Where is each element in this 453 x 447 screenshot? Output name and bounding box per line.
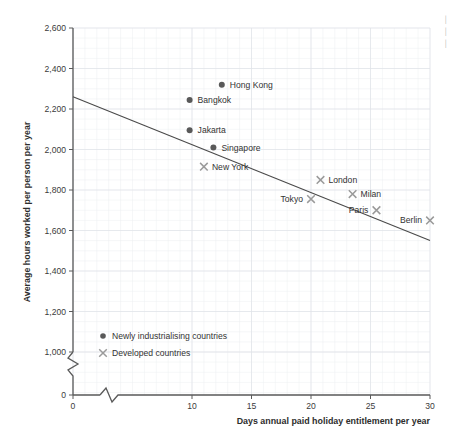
edge-text-line: │ xyxy=(444,14,453,26)
data-marker-dot xyxy=(219,82,225,88)
data-marker-dot xyxy=(187,97,193,103)
chart-canvas: 01,0001,2001,4001,6001,8002,0002,2002,40… xyxy=(0,0,453,447)
x-tick-label: 20 xyxy=(306,401,316,411)
y-tick-label: 1,000 xyxy=(44,347,66,357)
y-tick-label: 0 xyxy=(61,390,66,400)
y-axis-tick-labels: 01,0001,2001,4001,6001,8002,0002,2002,40… xyxy=(44,23,66,400)
data-marker-dot xyxy=(187,127,193,133)
data-point-label: Jakarta xyxy=(198,125,226,135)
series-newly-industrialising: Hong KongBangkokJakartaSingapore xyxy=(187,80,273,153)
data-point-label: Singapore xyxy=(221,143,260,153)
x-tick-label: 10 xyxy=(187,401,197,411)
data-point-label: London xyxy=(329,175,358,185)
edge-text-line: │ xyxy=(444,38,453,50)
data-points: Hong KongBangkokJakartaSingaporeNew York… xyxy=(187,80,434,226)
data-point-label: Bangkok xyxy=(198,95,232,105)
data-point-label: Milan xyxy=(361,189,382,199)
x-tick-label: 0 xyxy=(71,401,76,411)
data-point-label: New York xyxy=(212,162,249,172)
y-tick-label: 2,600 xyxy=(44,23,66,33)
legend-item-label: Newly industrialising countries xyxy=(112,331,227,341)
x-tick-label: 25 xyxy=(366,401,376,411)
scatter-chart: 01,0001,2001,4001,6001,8002,0002,2002,40… xyxy=(0,0,453,447)
data-point-label: Paris xyxy=(349,205,369,215)
data-marker-x xyxy=(349,190,357,198)
y-tick-label: 1,200 xyxy=(44,307,66,317)
x-axis-title: Days annual paid holiday entitlement per… xyxy=(237,416,431,426)
y-axis xyxy=(68,28,78,395)
data-marker-dot xyxy=(210,145,216,151)
x-tick-label: 15 xyxy=(247,401,257,411)
x-axis-tick-labels: 01015202530 xyxy=(71,401,435,411)
legend-item-label: Developed countries xyxy=(112,348,190,358)
chart-legend: Newly industrialising countriesDeveloped… xyxy=(99,331,227,358)
y-tick-label: 1,800 xyxy=(44,185,66,195)
legend-marker-x xyxy=(99,349,107,357)
series-developed: New YorkLondonTokyoMilanParisBerlin xyxy=(200,162,434,226)
data-point-label: Berlin xyxy=(400,215,422,225)
y-tick-label: 2,400 xyxy=(44,64,66,74)
y-tick-label: 2,000 xyxy=(44,145,66,155)
x-tick-label: 30 xyxy=(425,401,435,411)
page-edge-fragment: │││ xyxy=(444,14,453,60)
data-point-label: Hong Kong xyxy=(230,80,273,90)
legend-marker-dot xyxy=(100,333,106,339)
y-tick-label: 2,200 xyxy=(44,104,66,114)
data-point-label: Tokyo xyxy=(281,194,304,204)
y-tick-label: 1,600 xyxy=(44,226,66,236)
y-axis-title: Average hours worked per person per year xyxy=(22,121,32,302)
edge-text-line: │ xyxy=(444,26,453,38)
y-tick-label: 1,400 xyxy=(44,266,66,276)
